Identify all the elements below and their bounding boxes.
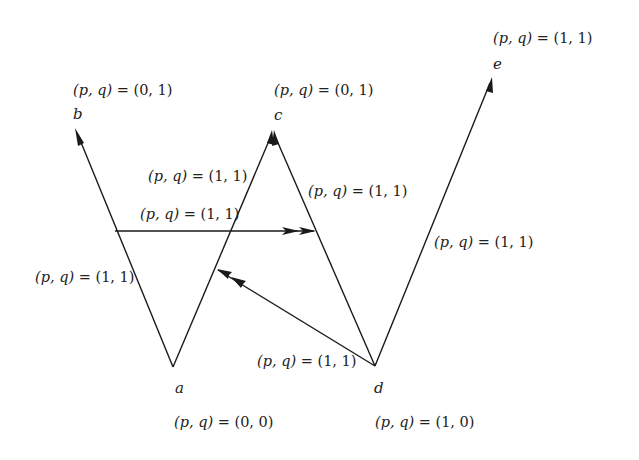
node-e-label: e xyxy=(493,55,502,73)
arrowhead-e-icon xyxy=(486,77,493,93)
edge-horizontal-pq: (p, q) = (1, 1) xyxy=(140,206,239,222)
node-e-pq: (p, q) = (1, 1) xyxy=(493,30,592,46)
edge-d-e xyxy=(375,83,490,366)
arrowhead-b-icon xyxy=(75,128,84,146)
node-b-pq: (p, q) = (0, 1) xyxy=(73,82,172,98)
node-a-pq: (p, q) = (0, 0) xyxy=(174,414,273,430)
edge-d-to-ac-pq: (p, q) = (1, 1) xyxy=(257,353,356,369)
edge-de-pq: (p, q) = (1, 1) xyxy=(434,234,533,250)
game-graph-diagram: a b c d e (p, q) = (0, 1) (p, q) = (0, 1… xyxy=(0,0,639,460)
node-d-label: d xyxy=(374,379,384,397)
edge-ab-pq: (p, q) = (1, 1) xyxy=(35,269,134,285)
edge-dc-pq: (p, q) = (1, 1) xyxy=(308,183,407,199)
edge-d-c xyxy=(275,136,375,366)
arrowhead-c-from-d-icon xyxy=(272,130,279,146)
node-c-pq: (p, q) = (0, 1) xyxy=(274,82,373,98)
node-b-label: b xyxy=(73,105,83,123)
node-c-label: c xyxy=(274,106,283,124)
edge-ac-pq: (p, q) = (1, 1) xyxy=(148,168,247,184)
node-a-label: a xyxy=(175,379,184,397)
node-d-pq: (p, q) = (1, 0) xyxy=(375,414,474,430)
